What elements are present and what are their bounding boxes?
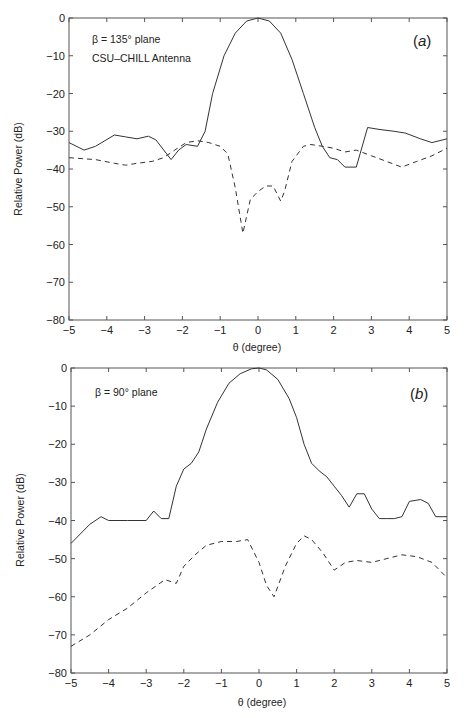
annotation-antenna-a: CSU–CHILL Antenna <box>92 52 191 64</box>
y-tick-label: −60 <box>46 239 65 251</box>
x-tick-label: −2 <box>176 324 189 336</box>
annotation-plane-a: β = 135° plane <box>92 33 160 45</box>
x-axis-label-a: θ (degree) <box>233 341 281 353</box>
series-b <box>71 368 447 646</box>
x-tick-label: −5 <box>63 324 76 336</box>
y-tick-label: −10 <box>46 50 65 62</box>
y-tick-label: −70 <box>46 276 65 288</box>
x-tick-label: 3 <box>369 677 375 689</box>
plot-panel-b: 0−10−20−30−40−50−60−70−80 −5−4−3−2−10123… <box>14 362 450 708</box>
x-tick-label: 0 <box>255 324 261 336</box>
annotation-plane-b: β = 90° plane <box>95 386 158 398</box>
plot-panel-a: 0−10−20−30−40−50−60−70−80 −5−4−3−2−10123… <box>12 12 450 353</box>
x-tick-label: 3 <box>368 324 374 336</box>
x-tick-label: 5 <box>444 677 450 689</box>
y-tick-label: −70 <box>48 629 67 641</box>
figure: 0−10−20−30−40−50−60−70−80 −5−4−3−2−10123… <box>0 0 467 718</box>
x-tick-label: −3 <box>140 677 153 689</box>
x-tick-label: 1 <box>294 677 300 689</box>
x-tick-label: 1 <box>293 324 299 336</box>
y-tick-label: −40 <box>46 163 65 175</box>
panel-label-b: (b) <box>410 385 428 402</box>
x-ticks-a: −5−4−3−2−1012345 <box>63 18 450 336</box>
y-tick-label: 0 <box>59 12 65 24</box>
x-tick-label: 5 <box>444 324 450 336</box>
series-a <box>69 18 447 233</box>
y-tick-label: −40 <box>48 515 67 527</box>
x-tick-label: −3 <box>138 324 151 336</box>
cross-polar-line <box>69 141 447 234</box>
x-tick-label: −1 <box>214 324 227 336</box>
panel-label-a: (a) <box>413 32 431 49</box>
x-tick-label: 4 <box>406 324 412 336</box>
x-axis-label-b: θ (degree) <box>238 696 286 708</box>
x-ticks-b: −5−4−3−2−1012345 <box>65 368 450 689</box>
x-tick-label: −4 <box>102 677 115 689</box>
y-axis-label-a: Relative Power (dB) <box>12 122 24 215</box>
x-tick-label: −1 <box>215 677 228 689</box>
x-tick-label: 2 <box>331 324 337 336</box>
y-tick-label: −10 <box>48 400 67 412</box>
x-tick-label: 2 <box>331 677 337 689</box>
y-tick-label: −60 <box>48 591 67 603</box>
y-tick-label: −20 <box>46 88 65 100</box>
y-tick-label: 0 <box>61 362 67 374</box>
y-tick-label: −50 <box>46 201 65 213</box>
y-tick-label: −50 <box>48 553 67 565</box>
y-tick-label: −20 <box>48 438 67 450</box>
x-tick-label: −5 <box>65 677 78 689</box>
cross-polar-line <box>71 536 447 647</box>
y-tick-label: −30 <box>46 125 65 137</box>
y-tick-label: −30 <box>48 476 67 488</box>
x-tick-label: 4 <box>406 677 412 689</box>
x-tick-label: −4 <box>101 324 114 336</box>
y-axis-label-b: Relative Power (dB) <box>14 473 26 566</box>
x-tick-label: −2 <box>178 677 191 689</box>
x-tick-label: 0 <box>256 677 262 689</box>
